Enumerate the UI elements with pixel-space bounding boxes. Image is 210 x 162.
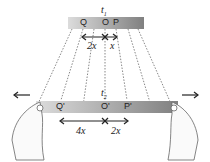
- mark-p-prime: P': [124, 102, 132, 111]
- span-2x: 2x: [87, 41, 96, 51]
- mark-q: Q: [80, 18, 87, 27]
- mark-o: O: [102, 18, 109, 27]
- time-label-t2: t2: [101, 88, 107, 100]
- span-4x: 4x: [76, 126, 85, 136]
- time-label-t1: t1: [101, 5, 107, 17]
- bottom-span-arrows: [60, 118, 128, 124]
- mark-p: P: [113, 18, 119, 27]
- span-x: x: [110, 41, 114, 51]
- mark-o-prime: O': [101, 102, 110, 111]
- mark-q-prime: Q': [56, 102, 65, 111]
- span-2x-bottom: 2x: [111, 126, 120, 136]
